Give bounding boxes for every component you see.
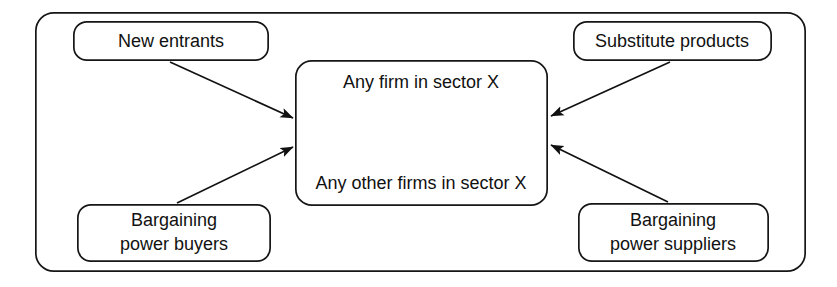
bargaining-power-suppliers-label-line-1: Bargaining: [630, 210, 716, 230]
central-firms-label-line-1: Any firm in sector X: [343, 72, 499, 92]
bargaining-power-suppliers-label-line-2: power suppliers: [610, 234, 736, 254]
node-new-entrants[interactable]: New entrants: [74, 22, 268, 60]
diagram-canvas: Any firm in sector X Any other firms in …: [0, 0, 837, 287]
node-bargaining-power-buyers[interactable]: Bargaining power buyers: [78, 205, 270, 261]
node-bargaining-power-suppliers[interactable]: Bargaining power suppliers: [579, 204, 768, 261]
bargaining-power-buyers-label-line-1: Bargaining: [131, 210, 217, 230]
bargaining-power-buyers-label-line-2: power buyers: [120, 234, 228, 254]
node-central-firms[interactable]: Any firm in sector X Any other firms in …: [296, 61, 547, 205]
central-firms-label-line-2: Any other firms in sector X: [315, 173, 526, 193]
substitute-products-label: Substitute products: [595, 31, 749, 51]
new-entrants-label: New entrants: [118, 31, 224, 51]
diagram-svg: Any firm in sector X Any other firms in …: [0, 0, 837, 287]
node-substitute-products[interactable]: Substitute products: [574, 22, 771, 60]
